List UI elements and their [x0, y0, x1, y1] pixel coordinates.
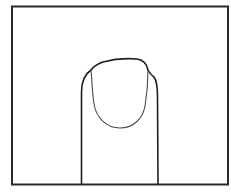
frame-border: [12, 7, 228, 185]
fingertip-illustration: [0, 0, 231, 192]
illustration-canvas: [0, 0, 231, 192]
